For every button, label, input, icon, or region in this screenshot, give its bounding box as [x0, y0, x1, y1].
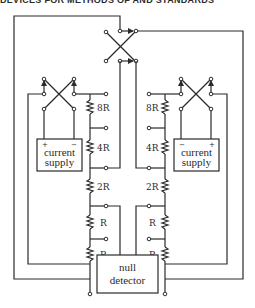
center-lead-left	[107, 206, 120, 255]
left-supply-label-2: supply	[45, 156, 75, 168]
detector-label-2: detector	[110, 274, 146, 286]
null-detector: null detector	[97, 255, 158, 293]
left-reversing-switch[interactable]	[42, 77, 90, 139]
top-reversing-switch[interactable]	[104, 29, 148, 168]
left-resistor-8r-label: 8R	[97, 103, 110, 113]
right-reversing-switch[interactable]	[165, 77, 213, 139]
center-lead-right	[136, 206, 148, 255]
left-resistor-2r-label: 2R	[97, 182, 110, 192]
left-current-supply: + − current supply	[37, 139, 82, 171]
left-resistor-4r-label: 4R	[97, 143, 110, 153]
right-supply-label-2: supply	[182, 156, 212, 168]
left-resistor-r1-label: R	[100, 218, 107, 228]
right-resistor-2r-label: 2R	[146, 182, 159, 192]
right-resistor-4r-label: 4R	[146, 143, 159, 153]
circuit-diagram: 8R 4R 2R R R 8R 4R 2R R R	[0, 0, 255, 308]
right-resistor-r1-label: R	[149, 218, 156, 228]
right-resistor-8r-label: 8R	[146, 103, 159, 113]
right-current-supply: − + current supply	[174, 139, 219, 171]
detector-label-1: null	[119, 261, 136, 273]
